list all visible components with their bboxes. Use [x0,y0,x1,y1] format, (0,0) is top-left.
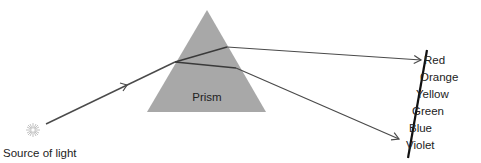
source-label: Source of light [3,147,77,159]
spectrum-label-blue: Blue [409,122,432,134]
prism-label: Prism [192,91,221,103]
spectrum-label-violet: Violet [406,139,435,151]
prism-dispersion-diagram: Prism Red Orange Yellow Green Blue Viole… [0,0,481,163]
spectrum-label-yellow: Yellow [416,88,450,100]
spectrum-label-green: Green [412,105,444,117]
red-ray-exit [227,47,421,60]
light-burst-icon [26,123,40,137]
incident-ray [46,62,175,124]
spectrum-label-orange: Orange [420,71,458,83]
spectrum-label-red: Red [424,54,445,66]
